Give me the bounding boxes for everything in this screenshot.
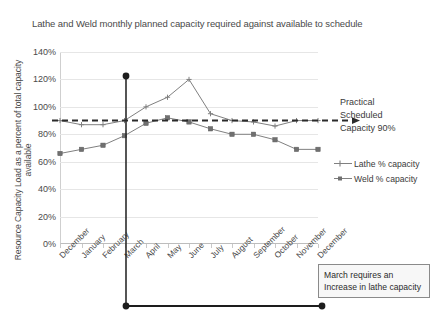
x-tick — [125, 244, 126, 248]
data-point-weld — [294, 147, 298, 151]
practical-line-1: Practical — [340, 96, 396, 109]
practical-line-2: Scheduled — [340, 109, 396, 122]
legend-label-lathe: Lathe % capacity — [354, 159, 419, 169]
y-tick-120: 120% — [16, 74, 56, 84]
y-tick-100: 100% — [16, 102, 56, 112]
data-point-weld — [79, 147, 83, 151]
legend-item-weld: Weld % capacity — [334, 171, 438, 186]
chart-title: Lathe and Weld monthly planned capacity … — [32, 18, 363, 29]
chart-root: Lathe and Weld monthly planned capacity … — [0, 0, 440, 318]
practical-capacity-annotation: Practical Scheduled Capacity 90% — [340, 96, 396, 135]
data-point-weld — [58, 151, 62, 155]
x-tick — [297, 244, 298, 248]
y-tick-20: 20% — [16, 212, 56, 222]
legend-label-weld: Weld % capacity — [354, 174, 417, 184]
data-point-weld — [208, 127, 212, 131]
data-point-weld — [122, 133, 126, 137]
plot-area — [60, 52, 318, 244]
practical-line-3: Capacity 90% — [340, 122, 396, 135]
data-point-weld — [251, 132, 255, 136]
y-tick-140: 140% — [16, 47, 56, 57]
data-point-lathe — [57, 118, 62, 123]
x-tick — [211, 244, 212, 248]
data-point-lathe — [143, 104, 148, 109]
march-note-box: March requires an Increase in lathe capa… — [318, 264, 430, 298]
series-line-lathe — [60, 79, 318, 126]
weld-marker-icon — [334, 174, 352, 183]
y-tick-60: 60% — [16, 157, 56, 167]
data-point-weld — [230, 132, 234, 136]
series-canvas — [60, 52, 318, 244]
data-point-lathe — [79, 122, 84, 127]
data-point-weld — [144, 121, 148, 125]
data-point-lathe — [208, 111, 213, 116]
data-point-weld — [101, 143, 105, 147]
data-point-weld — [273, 138, 277, 142]
y-tick-80: 80% — [16, 129, 56, 139]
data-point-weld — [316, 147, 320, 151]
lathe-marker-icon — [334, 159, 352, 168]
data-point-weld — [165, 116, 169, 120]
data-point-lathe — [272, 123, 277, 128]
x-tick — [254, 244, 255, 248]
x-tick — [82, 244, 83, 248]
data-point-lathe — [100, 122, 105, 127]
y-tick-0: 0% — [16, 239, 56, 249]
note-line-1: March requires an — [324, 269, 424, 281]
legend: Lathe % capacity Weld % capacity — [334, 156, 438, 186]
y-tick-40: 40% — [16, 184, 56, 194]
y-axis-tick-labels: 140% 120% 100% 80% 60% 40% 20% 0% — [12, 52, 56, 244]
x-tick — [168, 244, 169, 248]
note-line-2: Increase in lathe capacity — [324, 281, 424, 293]
series-group — [52, 77, 360, 156]
legend-item-lathe: Lathe % capacity — [334, 156, 438, 171]
